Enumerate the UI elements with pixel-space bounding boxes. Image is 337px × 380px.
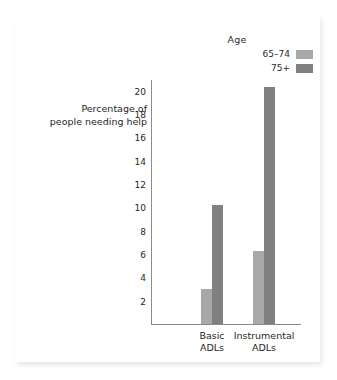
y-tick-label-2: 2 [140, 297, 151, 307]
bar-basic-adls-75-plus [212, 205, 223, 324]
x-axis-label-basic-adls-line-2: ADLs [199, 342, 224, 354]
y-tick-label-20: 20 [135, 87, 151, 97]
y-axis-title-line-1: Percentage of [19, 102, 147, 115]
x-axis-line [151, 324, 301, 325]
y-axis-title: Percentage of people needing help [19, 102, 147, 128]
bar-chart: Age 65–74 75+ Percentage of people needi… [15, 16, 320, 362]
bar-instrumental-adls-75-plus [264, 87, 275, 324]
x-axis-label-basic-adls: Basic ADLs [199, 330, 224, 354]
chart-legend: Age 65–74 75+ [183, 34, 313, 73]
x-axis-label-instrumental-adls-line-1: Instrumental [234, 330, 295, 342]
x-axis-label-instrumental-adls-line-2: ADLs [234, 342, 295, 354]
y-tick-label-16: 16 [135, 133, 151, 143]
y-tick-label-8: 8 [140, 227, 151, 237]
legend-label-65-74: 65–74 [263, 49, 290, 59]
legend-item-65-74: 65–74 [183, 49, 313, 59]
bar-basic-adls-65-74 [201, 289, 212, 324]
y-tick-label-14: 14 [135, 157, 151, 167]
y-tick-label-10: 10 [135, 203, 151, 213]
legend-swatch-65-74 [296, 50, 313, 59]
y-tick-label-6: 6 [140, 250, 151, 260]
legend-item-75-plus: 75+ [183, 63, 313, 73]
legend-title: Age [183, 34, 313, 45]
legend-swatch-75-plus [296, 64, 313, 73]
chart-card: Age 65–74 75+ Percentage of people needi… [15, 16, 320, 362]
y-axis-line [151, 80, 152, 325]
y-tick-label-4: 4 [140, 273, 151, 283]
bar-instrumental-adls-65-74 [253, 251, 264, 325]
y-tick-label-18: 18 [135, 110, 151, 120]
chart-page: Age 65–74 75+ Percentage of people needi… [0, 0, 337, 380]
y-axis-title-line-2: people needing help [19, 115, 147, 128]
x-axis-label-instrumental-adls: Instrumental ADLs [234, 330, 295, 354]
plot-area: 2 4 6 8 10 12 14 16 18 20 Basic A [151, 80, 301, 325]
x-axis-label-basic-adls-line-1: Basic [199, 330, 224, 342]
legend-label-75-plus: 75+ [271, 63, 290, 73]
y-tick-label-12: 12 [135, 180, 151, 190]
